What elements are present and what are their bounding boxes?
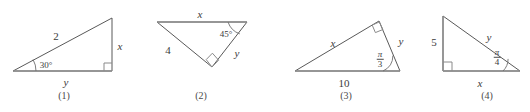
triangle-4-angle-denominator: 4 bbox=[494, 58, 501, 67]
triangle-1-hypotenuse-label: 2 bbox=[53, 31, 59, 42]
triangle-3-right-side-label: y bbox=[399, 36, 404, 47]
triangle-3-caption: (3) bbox=[340, 91, 352, 101]
triangle-4-base-label: x bbox=[478, 78, 483, 89]
triangle-2-top-side-label: x bbox=[198, 9, 203, 20]
triangle-3-angle-fraction: π 3 bbox=[377, 50, 384, 70]
triangle-1-caption: (1) bbox=[58, 91, 70, 101]
triangle-1-vertical-leg-label: x bbox=[118, 41, 123, 52]
triangle-2-angle-label: 45° bbox=[220, 30, 233, 39]
triangle-2-right-angle-mark-b bbox=[206, 53, 218, 60]
triangle-3-angle-denominator: 3 bbox=[377, 60, 384, 69]
triangle-2-left-side-label: 4 bbox=[165, 45, 171, 56]
triangle-3-angle-label: π 3 bbox=[377, 49, 384, 69]
triangle-4-hypotenuse-label: y bbox=[487, 32, 492, 43]
triangle-1-outline bbox=[13, 18, 112, 71]
triangle-4-right-angle-mark bbox=[443, 62, 452, 71]
triangle-3-base-label: 10 bbox=[339, 78, 350, 89]
triangle-2-right-side-label: y bbox=[235, 48, 240, 59]
triangle-3-long-side-label: x bbox=[331, 38, 336, 49]
triangle-2-caption: (2) bbox=[195, 91, 207, 101]
triangle-4-caption: (4) bbox=[481, 91, 493, 101]
triangle-4-vertical-leg-label: 5 bbox=[431, 37, 437, 48]
triangle-4-shape bbox=[443, 16, 520, 71]
triangle-4-angle-label: π 4 bbox=[494, 47, 501, 67]
triangle-1-angle-label: 30° bbox=[40, 61, 53, 70]
triangle-1-right-angle-mark bbox=[104, 63, 112, 71]
triangle-3-shape bbox=[295, 21, 400, 71]
triangle-4-outline bbox=[443, 16, 520, 71]
triangle-4-angle-fraction: π 4 bbox=[494, 48, 501, 68]
triangles-diagram-svg bbox=[0, 0, 530, 112]
triangle-3-angle-arc bbox=[383, 56, 393, 71]
geometry-figure-panel: 2 x y 30° (1) x 4 y 45° (2) x 10 y π 3 (… bbox=[0, 0, 530, 112]
triangle-1-shape bbox=[13, 18, 112, 71]
triangle-1-angle-arc bbox=[33, 60, 36, 71]
triangle-1-horizontal-leg-label: y bbox=[64, 77, 69, 88]
triangle-3-outline bbox=[295, 21, 400, 71]
